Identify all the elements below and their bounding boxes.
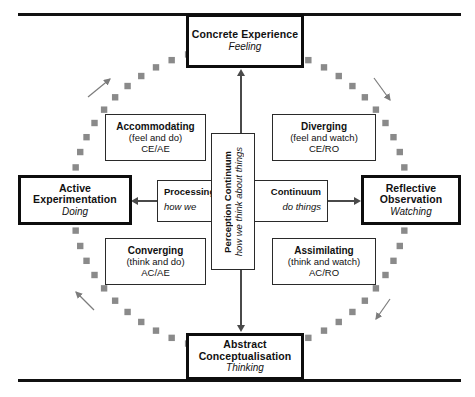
axis-line-up	[240, 75, 242, 133]
processing-continuum-label-right: Continuum	[271, 186, 321, 197]
perception-continuum-label: Perception Continuum	[222, 151, 233, 253]
style-title: Accommodating	[116, 121, 194, 132]
stage-title: Abstract Conceptualisation	[189, 339, 301, 362]
axis-line-right	[327, 200, 357, 202]
style-code: AC/RO	[309, 267, 339, 278]
stage-title: Concrete Experience	[192, 29, 298, 41]
axis-line-left	[137, 200, 159, 202]
style-box-accommodating[interactable]: Accommodating (feel and do) CE/AE	[105, 114, 206, 161]
stage-box-reflective-observation[interactable]: Reflective Observation Watching	[361, 175, 461, 225]
perception-continuum-sub: how we think about things	[233, 147, 244, 256]
processing-continuum-sub-left: how we	[164, 201, 196, 212]
cycle-arrow-top-left	[88, 79, 110, 97]
style-descriptor: (feel and watch)	[290, 132, 358, 143]
arrow-head-up	[237, 69, 245, 76]
stage-mode: Feeling	[229, 41, 262, 53]
style-title: Diverging	[301, 121, 347, 132]
stage-box-abstract-conceptualisation[interactable]: Abstract Conceptualisation Thinking	[186, 333, 304, 380]
style-descriptor: (think and do)	[126, 256, 184, 267]
style-title: Assimilating	[294, 245, 353, 256]
stage-mode: Watching	[390, 206, 432, 218]
processing-continuum-sub-right: do things	[282, 201, 321, 212]
cycle-arrow-bottom-right	[376, 299, 390, 319]
style-code: CE/RO	[309, 143, 339, 154]
style-title: Converging	[128, 245, 184, 256]
processing-continuum-label-left: Processing	[164, 186, 215, 197]
arrow-head-down	[237, 325, 245, 332]
cycle-arrow-bottom-left	[76, 292, 94, 310]
axis-line-down	[240, 270, 242, 327]
learning-cycle-diagram: Concrete Experience Feeling Reflective O…	[0, 0, 475, 397]
stage-title: Active Experimentation	[21, 183, 129, 206]
stage-title: Reflective Observation	[364, 183, 458, 206]
stage-mode: Thinking	[226, 362, 264, 374]
style-box-assimilating[interactable]: Assimilating (think and watch) AC/RO	[272, 238, 376, 285]
stage-box-concrete-experience[interactable]: Concrete Experience Feeling	[186, 14, 304, 68]
style-box-diverging[interactable]: Diverging (feel and watch) CE/RO	[272, 114, 376, 161]
style-descriptor: (feel and do)	[129, 132, 182, 143]
cycle-arrow-top-right	[374, 78, 390, 100]
arrow-head-left	[131, 197, 138, 205]
stage-box-active-experimentation[interactable]: Active Experimentation Doing	[18, 175, 132, 225]
style-descriptor: (think and watch)	[288, 256, 360, 267]
style-box-converging[interactable]: Converging (think and do) AC/AE	[105, 238, 206, 285]
style-code: AC/AE	[141, 267, 170, 278]
style-code: CE/AE	[141, 143, 170, 154]
arrow-head-right	[354, 197, 361, 205]
stage-mode: Doing	[62, 206, 88, 218]
perception-continuum-box[interactable]: Perception Continuum how we think about …	[211, 133, 255, 270]
